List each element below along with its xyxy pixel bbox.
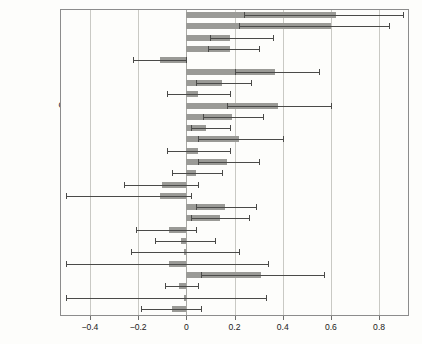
error-bar-line bbox=[172, 173, 223, 174]
error-bar-cap-low bbox=[131, 249, 132, 255]
error-bar-cap-high bbox=[283, 136, 284, 142]
error-bar-cap-low bbox=[203, 114, 204, 120]
error-bar-cap-low bbox=[155, 238, 156, 244]
error-bar-cap-low bbox=[244, 12, 245, 18]
error-bar-line bbox=[198, 139, 282, 140]
error-bar-cap-low bbox=[165, 283, 166, 289]
error-bar-line bbox=[141, 309, 201, 310]
error-bar-cap-low bbox=[167, 91, 168, 97]
chart-row bbox=[61, 124, 408, 133]
error-bar-cap-low bbox=[191, 215, 192, 221]
error-bar-line bbox=[165, 286, 199, 287]
error-bar-line bbox=[131, 252, 239, 253]
error-bar-cap-high bbox=[191, 193, 192, 199]
error-bar-cap-high bbox=[263, 114, 264, 120]
chart-row bbox=[61, 282, 408, 291]
chart-row bbox=[61, 22, 408, 31]
chart-row bbox=[61, 214, 408, 223]
error-bar-line bbox=[239, 26, 388, 27]
error-bar-line bbox=[191, 128, 230, 129]
error-bar-cap-high bbox=[259, 159, 260, 165]
error-bar-cap-low bbox=[198, 136, 199, 142]
x-tick-label: 0.6 bbox=[325, 322, 337, 332]
chart-row bbox=[61, 181, 408, 190]
error-bar-cap-high bbox=[249, 215, 250, 221]
error-bar-line bbox=[66, 196, 191, 197]
error-bar-cap-high bbox=[251, 80, 252, 86]
error-bar-cap-high bbox=[198, 283, 199, 289]
chart-row bbox=[61, 56, 408, 65]
error-bar-cap-low bbox=[208, 46, 209, 52]
error-bar-cap-low bbox=[66, 295, 67, 301]
error-bar-line bbox=[191, 218, 249, 219]
error-bar-cap-low bbox=[141, 306, 142, 312]
chart-row bbox=[61, 260, 408, 269]
error-bar-cap-low bbox=[227, 103, 228, 109]
error-bar-cap-high bbox=[196, 227, 197, 233]
chart-row bbox=[61, 11, 408, 20]
chart-row bbox=[61, 203, 408, 212]
error-bar-cap-low bbox=[201, 272, 202, 278]
error-bar-cap-high bbox=[215, 238, 216, 244]
x-tick-label: 0.4 bbox=[277, 322, 289, 332]
error-bar-cap-high bbox=[239, 249, 240, 255]
x-tick-label: −0.2 bbox=[130, 322, 147, 332]
error-bar-line bbox=[208, 49, 259, 50]
error-bar-cap-low bbox=[167, 148, 168, 154]
x-tick-mark bbox=[186, 316, 187, 320]
x-tick-mark bbox=[138, 316, 139, 320]
error-bar-line bbox=[227, 106, 331, 107]
chart-row bbox=[61, 169, 408, 178]
error-bar-cap-high bbox=[230, 148, 231, 154]
chart-row bbox=[61, 226, 408, 235]
plot-area bbox=[60, 9, 409, 316]
error-bar-cap-high bbox=[403, 12, 404, 18]
error-bar-cap-high bbox=[256, 204, 257, 210]
error-bar-cap-low bbox=[191, 125, 192, 131]
chart-row bbox=[61, 68, 408, 77]
error-bar-cap-high bbox=[389, 23, 390, 29]
error-bar-line bbox=[66, 298, 266, 299]
error-bar-line bbox=[244, 15, 403, 16]
error-bar-cap-high bbox=[268, 261, 269, 267]
x-tick-label: 0.2 bbox=[229, 322, 241, 332]
chart-row bbox=[61, 79, 408, 88]
error-bar-line bbox=[66, 264, 268, 265]
error-bar-cap-high bbox=[266, 295, 267, 301]
chart-row bbox=[61, 113, 408, 122]
x-axis: −0.4−0.200.20.40.60.8 bbox=[60, 316, 409, 342]
error-bar-cap-high bbox=[319, 69, 320, 75]
error-bar-cap-high bbox=[259, 46, 260, 52]
chart-row bbox=[61, 271, 408, 280]
error-bar-cap-high bbox=[230, 125, 231, 131]
error-bar-line bbox=[136, 230, 196, 231]
error-bar-cap-low bbox=[66, 193, 67, 199]
chart-row bbox=[61, 248, 408, 257]
error-bar-cap-high bbox=[198, 182, 199, 188]
error-bar-cap-low bbox=[136, 227, 137, 233]
chart-row bbox=[61, 45, 408, 54]
x-tick-label: −0.4 bbox=[81, 322, 98, 332]
error-bar-cap-high bbox=[230, 91, 231, 97]
chart-row bbox=[61, 90, 408, 99]
error-bar-line bbox=[210, 38, 273, 39]
chart-row bbox=[61, 135, 408, 144]
error-bar-line bbox=[203, 117, 263, 118]
error-bar-line bbox=[133, 60, 186, 61]
error-bar-line bbox=[235, 72, 319, 73]
chart-row bbox=[61, 158, 408, 167]
error-bar-line bbox=[196, 207, 256, 208]
x-tick-mark bbox=[235, 316, 236, 320]
bar-chart: Alito***Roberts***Breyer***Ginsburg***Th… bbox=[0, 0, 422, 344]
chart-row bbox=[61, 34, 408, 43]
error-bar-cap-low bbox=[210, 35, 211, 41]
error-bar-cap-low bbox=[66, 261, 67, 267]
error-bar-line bbox=[201, 275, 324, 276]
error-bar-line bbox=[124, 185, 199, 186]
error-bar-cap-low bbox=[172, 170, 173, 176]
error-bar-cap-high bbox=[273, 35, 274, 41]
x-tick-mark bbox=[90, 316, 91, 320]
error-bar-line bbox=[198, 162, 258, 163]
chart-row bbox=[61, 147, 408, 156]
error-bar-cap-low bbox=[239, 23, 240, 29]
